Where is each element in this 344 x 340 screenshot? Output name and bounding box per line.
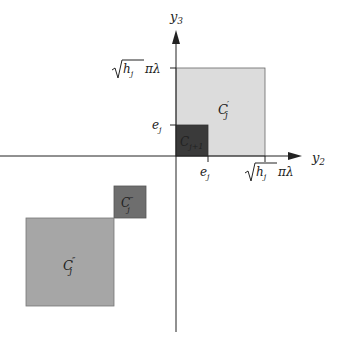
svg-text:hj: hj (123, 62, 134, 78)
svg-text:hj: hj (256, 165, 267, 181)
x-tick-label-sqrt: hj πλ (245, 163, 294, 181)
y-axis-label: y3 (169, 9, 183, 26)
svg-text:πλ: πλ (144, 62, 161, 76)
x-axis-arrow-icon (288, 152, 302, 160)
x-tick-label-ej: ej (200, 165, 210, 181)
diagram-canvas: y3 y2 hj πλ ej ej hj πλ C′j Cj+1 C‴j C″j (0, 0, 344, 340)
y-axis-arrow-icon (172, 30, 180, 44)
diagram-svg: y3 y2 hj πλ ej ej hj πλ C′j Cj+1 C‴j C″j (0, 0, 344, 340)
svg-text:πλ: πλ (277, 165, 294, 179)
x-axis-label: y2 (311, 150, 325, 167)
y-tick-label-sqrt: hj πλ (112, 60, 161, 78)
y-tick-label-ej: ej (152, 118, 162, 134)
